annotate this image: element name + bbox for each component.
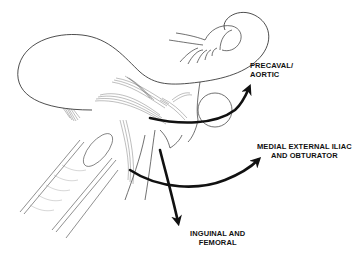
iliac-label-line1: MEDIAL EXTERNAL ILIAC bbox=[257, 142, 352, 151]
organ-body-outline bbox=[18, 12, 269, 110]
precaval-label-line1: PRECAVAL/ bbox=[250, 61, 293, 70]
fimbriae bbox=[169, 26, 241, 64]
inguinal-label-line2: FEMORAL bbox=[190, 238, 245, 247]
precaval-aortic-label: PRECAVAL/ AORTIC bbox=[250, 61, 293, 79]
drainage-arrows bbox=[130, 88, 258, 222]
medial-external-iliac-label: MEDIAL EXTERNAL ILIAC AND OBTURATOR bbox=[257, 142, 352, 160]
inguinal-label-line1: INGUINAL AND bbox=[190, 229, 245, 238]
inguinal-femoral-label: INGUINAL AND FEMORAL bbox=[190, 229, 245, 247]
iliac-label-line2: AND OBTURATOR bbox=[257, 151, 352, 160]
vaginal-tube bbox=[20, 129, 118, 238]
precaval-label-line2: AORTIC bbox=[250, 70, 293, 79]
ligament-hatching bbox=[63, 76, 192, 184]
vaginal-rugae bbox=[30, 165, 86, 211]
